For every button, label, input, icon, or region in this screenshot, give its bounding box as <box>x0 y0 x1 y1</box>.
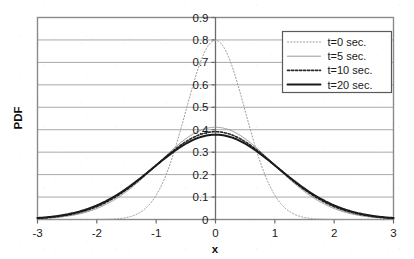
x-tick-label: 1 <box>272 227 278 239</box>
x-tick-label: -2 <box>92 227 102 239</box>
y-tick-label: 0.6 <box>193 79 209 91</box>
x-tick-label: 3 <box>390 227 396 239</box>
y-tick-label: 0.8 <box>193 34 209 46</box>
x-tick-label: -3 <box>32 227 42 239</box>
x-axis-title: x <box>212 243 219 255</box>
y-tick-label: 0.1 <box>193 191 209 203</box>
y-tick-label: 0 <box>202 214 208 226</box>
y-axis-title: PDF <box>12 107 24 130</box>
x-tick-label: -1 <box>151 227 161 239</box>
chart-figure: 00.10.20.30.40.50.60.70.80.9 -3-2-10123 … <box>0 0 414 259</box>
y-tick-label: 0.5 <box>193 101 209 113</box>
legend-label: t=0 sec. <box>328 36 367 48</box>
legend[interactable]: t=0 sec.t=5 sec.t=10 sec.t=20 sec. <box>283 32 392 93</box>
y-tick-label: 0.7 <box>193 56 209 68</box>
x-tick-label: 2 <box>331 227 337 239</box>
pdf-line-chart: 00.10.20.30.40.50.60.70.80.9 -3-2-10123 … <box>0 0 414 259</box>
y-tick-label: 0.9 <box>193 12 209 24</box>
y-tick-label: 0.2 <box>193 169 209 181</box>
y-tick-label: 0.4 <box>193 124 210 136</box>
legend-label: t=10 sec. <box>328 64 373 76</box>
y-tick-label: 0.3 <box>193 146 209 158</box>
legend-label: t=20 sec. <box>328 79 373 91</box>
x-tick-label: 0 <box>212 227 218 239</box>
legend-label: t=5 sec. <box>328 50 367 62</box>
